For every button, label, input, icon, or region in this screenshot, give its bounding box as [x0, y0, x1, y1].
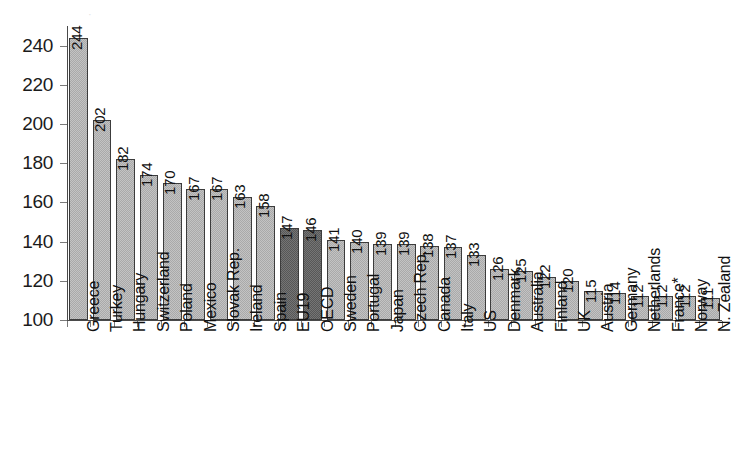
- category-label: OECD: [319, 287, 337, 332]
- category-label: Hungary: [131, 273, 149, 332]
- category-label: UK: [576, 310, 594, 332]
- y-tick-label: 200: [0, 113, 53, 135]
- value-label: 167: [185, 176, 202, 200]
- y-tick-label: 180: [0, 152, 53, 174]
- value-label: 139: [395, 231, 412, 255]
- category-label: EU19: [295, 293, 313, 332]
- category-label: Spain: [272, 292, 290, 332]
- category-label: US: [482, 310, 500, 332]
- value-label: 174: [138, 163, 155, 187]
- y-tick-mark: [60, 46, 67, 47]
- category-label: Turkey: [108, 285, 126, 332]
- value-label: 182: [114, 147, 131, 171]
- y-tick-mark: [60, 124, 67, 125]
- y-tick-mark: [60, 320, 67, 321]
- category-label: Netherlands: [646, 248, 664, 332]
- category-label: Slovak Rep.: [225, 248, 243, 332]
- y-tick-mark: [60, 85, 67, 86]
- value-label: 158: [255, 194, 272, 218]
- value-label: 139: [372, 231, 389, 255]
- value-label: 126: [489, 257, 506, 281]
- category-label: Canada: [436, 277, 454, 332]
- category-label: Greece: [85, 281, 103, 332]
- y-tick-label: 140: [0, 231, 53, 253]
- y-tick-mark: [60, 163, 67, 164]
- category-label: Finland: [553, 281, 571, 332]
- category-label: Ireland: [248, 284, 266, 332]
- category-label: Norway: [693, 279, 711, 332]
- y-tick-mark: [60, 242, 67, 243]
- category-label: Italy: [459, 304, 477, 332]
- category-label: Germany: [623, 268, 641, 332]
- category-label: Switzerland: [155, 251, 173, 332]
- value-label: 137: [442, 235, 459, 259]
- value-label: 244: [68, 25, 85, 49]
- y-axis-line: [67, 26, 68, 321]
- value-label: 141: [325, 227, 342, 251]
- value-label: 147: [278, 215, 295, 239]
- y-tick-label: 220: [0, 74, 53, 96]
- value-label: 167: [208, 176, 225, 200]
- value-label: 133: [465, 243, 482, 267]
- category-label: Mexico: [202, 283, 220, 332]
- category-label: N. Zealand: [716, 256, 734, 332]
- category-label: Japan: [389, 289, 407, 332]
- category-label: Australia: [529, 272, 547, 332]
- category-label: Denmark: [506, 268, 524, 332]
- scan-artifact-text: ·: [88, 8, 92, 20]
- y-tick-mark: [60, 281, 67, 282]
- category-label: Poland: [178, 283, 196, 332]
- value-label: 170: [161, 170, 178, 194]
- value-label: 202: [91, 108, 108, 132]
- value-label: 115: [582, 279, 599, 302]
- category-label: France*: [670, 277, 688, 332]
- category-label: Sweden: [342, 275, 360, 332]
- bar-chart: · 100120140160180200220240 2442021821741…: [0, 0, 747, 459]
- y-tick-label: 120: [0, 270, 53, 292]
- y-tick-mark: [60, 202, 67, 203]
- y-tick-label: 160: [0, 191, 53, 213]
- category-label: Czech Rep.: [412, 250, 430, 332]
- value-label: 146: [302, 217, 319, 241]
- value-label: 163: [231, 184, 248, 208]
- y-tick-label: 240: [0, 35, 53, 57]
- value-label: 140: [348, 229, 365, 253]
- y-tick-label: 100: [0, 309, 53, 331]
- category-label: Portugal: [365, 274, 383, 332]
- bar-greece: [69, 38, 88, 320]
- category-label: Austria: [599, 284, 617, 332]
- x-tick-mark: [67, 321, 68, 327]
